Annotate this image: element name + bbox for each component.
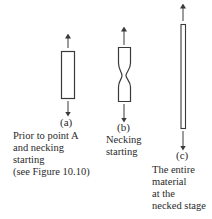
caption-line: material [152,176,206,188]
caption-line: The entire [152,164,206,176]
panel-a-caption: Prior to point A and necking starting (s… [13,130,90,178]
caption-line: starting [106,146,142,158]
caption-line: at the [152,188,206,200]
specimen-c-body [181,25,186,129]
panel-b-label: (b) [117,121,130,133]
specimen-b-necked-body [119,48,131,102]
specimen-c [181,6,186,148]
specimen-a-body [62,52,75,99]
caption-line: (see Figure 10.10) [13,166,90,178]
panel-c-caption: The entire material at the necked stage [152,164,206,212]
caption-line: necked stage [152,200,206,212]
panel-a-label: (a) [60,116,72,128]
caption-line: and necking [13,142,90,154]
caption-line: Necking [106,134,142,146]
caption-line: Prior to point A [13,130,90,142]
panel-c-label: (c) [176,149,188,161]
specimen-a [62,36,75,114]
caption-line: starting [13,154,90,166]
specimen-b [119,29,131,120]
panel-b-caption: Necking starting [106,134,142,158]
